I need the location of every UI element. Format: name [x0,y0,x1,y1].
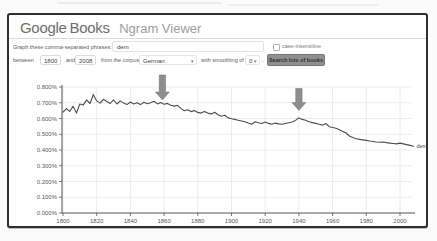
header: GoogleBooks Ngram Viewer [20,19,201,37]
phrases-input[interactable]: dem [112,41,264,52]
page: GoogleBooks Ngram Viewer Graph these com… [0,0,437,241]
scan-artifact [228,4,378,6]
scan-artifact [57,2,222,4]
year-end-value: 2008 [79,58,92,64]
app-window: GoogleBooks Ngram Viewer Graph these com… [7,13,428,228]
period-label: . [262,57,264,63]
chevron-down-icon: ▾ [191,58,194,64]
page-title: Ngram Viewer [119,21,201,36]
year-start-value: 1800 [44,58,57,64]
year-start-input[interactable]: 1800 [40,55,61,65]
case-insensitive-checkbox[interactable] [273,44,280,51]
smoothing-value: 0 [249,58,252,64]
google-logo: Google [20,19,67,36]
query-options-row: between 1800 and 2008 from the corpus Ge… [9,54,426,69]
smoothing-label: with smoothing of [201,57,244,63]
phrases-label: Graph these comma-separated phrases: [13,44,112,50]
phrases-value: dem [117,44,129,50]
corpus-label: from the corpus [101,57,139,63]
chevron-down-icon: ▾ [254,58,257,64]
smoothing-select[interactable]: 0 ▾ [245,55,260,65]
corpus-value: German [143,58,165,64]
year-end-input[interactable]: 2008 [75,55,96,65]
books-logo: Books [70,19,110,36]
header-divider [9,38,426,39]
corpus-select[interactable]: German ▾ [139,55,197,65]
search-books-button[interactable]: Search lots of books [267,54,325,66]
phrases-row: Graph these comma-separated phrases: dem… [9,41,426,54]
between-label: between [13,57,34,63]
and-label: and [66,57,75,63]
case-insensitive-label: case-insensitive [282,43,321,49]
